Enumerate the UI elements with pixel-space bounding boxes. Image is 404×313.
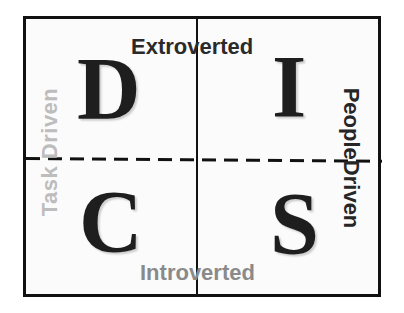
axis-label-people-driven: PeopleDriven (340, 88, 362, 229)
axis-label-extroverted: Extroverted (131, 36, 253, 58)
quadrant-letter-i: I (272, 43, 306, 131)
quadrant-letter-s: S (270, 180, 319, 268)
quadrant-letter-c: C (79, 178, 143, 266)
axis-label-introverted: Introverted (140, 262, 255, 284)
axis-label-task-driven: Task Driven (39, 88, 61, 217)
